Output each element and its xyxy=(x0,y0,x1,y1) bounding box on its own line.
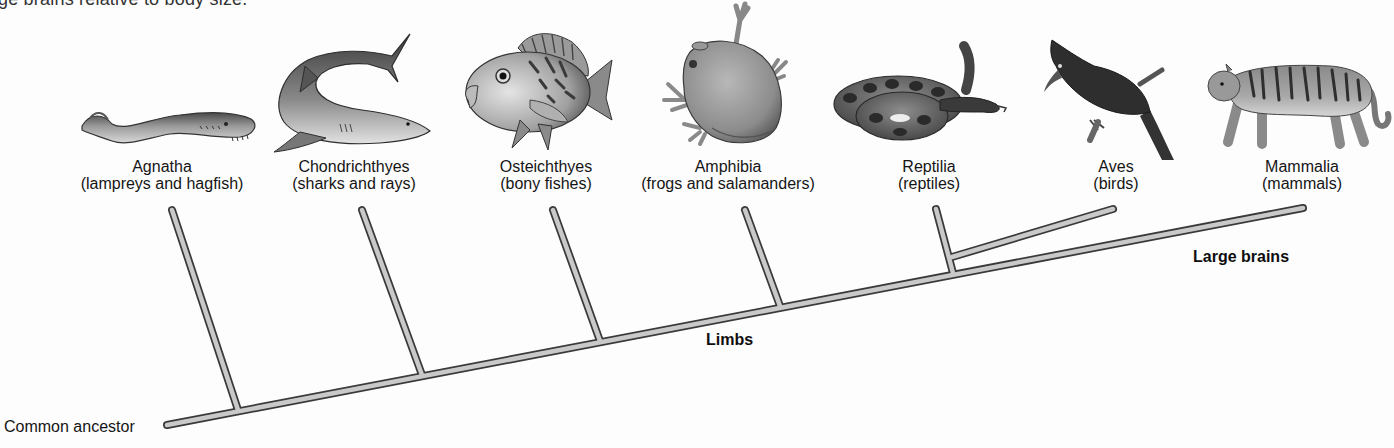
lamprey-illustration xyxy=(82,113,255,143)
root-label-common-ancestor: Common ancestor xyxy=(4,418,135,436)
trait-label-large-brains: Large brains xyxy=(1193,248,1289,266)
taxon-name: Chondrichthyes xyxy=(292,158,416,175)
taxon-label-agnatha: Agnatha (lampreys and hagfish) xyxy=(81,158,244,192)
taxon-common-name: (bony fishes) xyxy=(500,175,592,192)
tiger-illustration xyxy=(1208,64,1388,144)
taxon-label-chondrichthyes: Chondrichthyes (sharks and rays) xyxy=(292,158,416,192)
taxon-common-name: (reptiles) xyxy=(898,175,960,192)
bird-illustration xyxy=(1044,40,1174,160)
shark-illustration xyxy=(274,34,430,152)
taxon-common-name: (birds) xyxy=(1093,175,1138,192)
cladogram-tree xyxy=(167,208,1303,425)
bony-fish-illustration xyxy=(466,34,612,150)
taxon-name: Reptilia xyxy=(898,158,960,175)
taxon-common-name: (lampreys and hagfish) xyxy=(81,175,244,192)
taxon-name: Agnatha xyxy=(81,158,244,175)
taxon-label-osteichthyes: Osteichthyes (bony fishes) xyxy=(500,158,592,192)
trait-label-limbs: Limbs xyxy=(706,331,753,349)
snake-illustration xyxy=(834,46,1006,140)
taxon-label-amphibia: Amphibia (frogs and salamanders) xyxy=(641,158,814,192)
taxon-name: Osteichthyes xyxy=(500,158,592,175)
taxon-label-mammalia: Mammalia (mammals) xyxy=(1262,158,1342,192)
cladogram-artwork xyxy=(0,0,1394,448)
taxon-label-aves: Aves (birds) xyxy=(1093,158,1138,192)
taxon-common-name: (mammals) xyxy=(1262,175,1342,192)
frog-illustration xyxy=(664,4,786,144)
taxon-name: Aves xyxy=(1093,158,1138,175)
taxon-common-name: (frogs and salamanders) xyxy=(641,175,814,192)
taxon-common-name: (sharks and rays) xyxy=(292,175,416,192)
taxon-label-reptilia: Reptilia (reptiles) xyxy=(898,158,960,192)
taxon-name: Mammalia xyxy=(1262,158,1342,175)
taxon-name: Amphibia xyxy=(641,158,814,175)
